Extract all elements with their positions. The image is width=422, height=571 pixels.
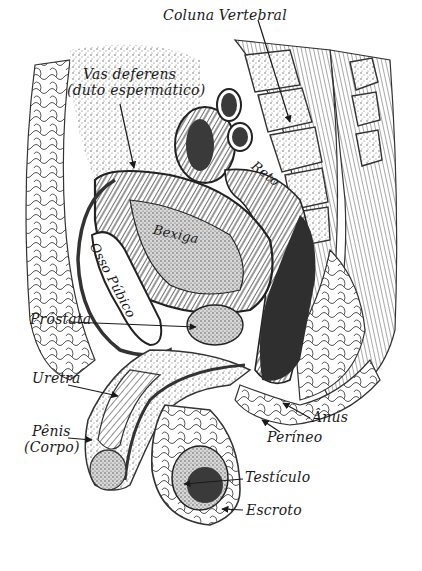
label-escroto: Escroto	[246, 503, 302, 518]
label-vas-deferens-sub: (duto espermático)	[67, 83, 205, 98]
testicle-core	[187, 467, 223, 503]
label-uretra: Uretra	[32, 371, 81, 386]
label-vas-deferens: Vas deferens	[83, 67, 176, 82]
label-perineo: Períneo	[267, 430, 322, 445]
label-penis-corpo: (Corpo)	[24, 440, 80, 455]
label-testiculo: Testículo	[245, 470, 310, 485]
label-prostata: Próstata	[30, 312, 91, 327]
glans	[90, 450, 126, 490]
prostate	[187, 305, 243, 345]
label-penis: Pênis	[32, 424, 71, 439]
label-coluna-vertebral: Coluna Vertebral	[163, 8, 287, 23]
label-anus: Ânus	[312, 410, 348, 425]
pelvic-anatomy-diagram	[0, 0, 422, 571]
